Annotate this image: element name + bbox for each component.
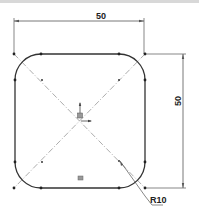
vertical-dimension-label[interactable]: 50 bbox=[173, 96, 183, 106]
origin-icon bbox=[78, 102, 93, 122]
horizontal-dimension-label[interactable]: 50 bbox=[96, 11, 106, 21]
vertical-dimension[interactable]: 50 bbox=[145, 54, 186, 188]
horizontal-dimension[interactable]: 50 bbox=[14, 11, 144, 54]
radius-dimension-label[interactable]: R10 bbox=[150, 195, 167, 205]
horizontal-constraint-icon[interactable] bbox=[78, 176, 83, 180]
sketch-canvas[interactable]: 50 50 bbox=[0, 0, 199, 218]
radius-dimension[interactable]: R10 bbox=[120, 161, 167, 205]
